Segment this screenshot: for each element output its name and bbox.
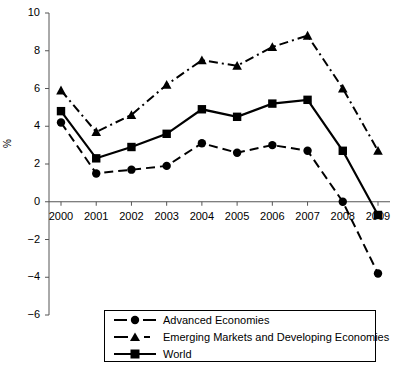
data-point-marker xyxy=(303,31,313,40)
data-point-marker xyxy=(339,147,347,155)
data-point-marker xyxy=(127,143,135,151)
legend-item-emerging-markets: Emerging Markets and Developing Economie… xyxy=(105,328,375,345)
data-point-marker xyxy=(233,148,241,156)
legend-label: World xyxy=(163,348,192,360)
legend-swatch-square-solid xyxy=(113,347,157,361)
data-point-marker xyxy=(374,269,382,277)
data-point-marker xyxy=(91,127,101,136)
line-chart: % 1086420−2−4−6 200020012002200320042005… xyxy=(0,0,407,368)
data-point-marker xyxy=(268,141,276,149)
series-line xyxy=(61,123,378,274)
data-point-marker xyxy=(268,99,276,107)
y-tick-label: 2 xyxy=(14,157,40,169)
series-line xyxy=(61,100,378,215)
chart-legend: Advanced Economies Emerging Markets and … xyxy=(104,310,376,362)
legend-label: Emerging Markets and Developing Economie… xyxy=(163,331,389,343)
data-point-marker xyxy=(198,105,206,113)
x-tick-label: 2006 xyxy=(255,210,289,222)
data-point-marker xyxy=(92,154,100,162)
data-point-marker xyxy=(57,118,65,126)
data-point-marker xyxy=(57,107,65,115)
legend-swatch-circle-dashed xyxy=(113,313,157,327)
legend-label: Advanced Economies xyxy=(163,314,269,326)
data-point-marker xyxy=(338,84,348,93)
data-point-marker xyxy=(92,169,100,177)
y-tick-label: −6 xyxy=(14,308,40,320)
data-point-marker xyxy=(127,165,135,173)
data-point-marker xyxy=(162,80,172,89)
data-point-marker xyxy=(162,130,170,138)
data-point-marker xyxy=(197,55,207,64)
y-tick-label: 4 xyxy=(14,119,40,131)
y-tick-label: 0 xyxy=(14,195,40,207)
data-point-marker xyxy=(56,86,66,95)
x-tick-label: 2007 xyxy=(291,210,325,222)
x-tick-label: 2009 xyxy=(361,210,395,222)
x-tick-label: 2003 xyxy=(150,210,184,222)
x-tick-label: 2005 xyxy=(220,210,254,222)
y-tick-label: 10 xyxy=(14,6,40,18)
legend-item-advanced-economies: Advanced Economies xyxy=(105,311,375,328)
data-point-marker xyxy=(162,162,170,170)
series-group xyxy=(56,31,383,278)
data-point-marker xyxy=(233,113,241,121)
data-point-marker xyxy=(303,96,311,104)
x-tick-label: 2008 xyxy=(326,210,360,222)
x-tick-label: 2000 xyxy=(44,210,78,222)
legend-item-world: World xyxy=(105,345,375,362)
y-tick-label: −2 xyxy=(14,233,40,245)
y-tick-label: 6 xyxy=(14,82,40,94)
y-axis-title: % xyxy=(2,139,13,148)
x-tick-label: 2002 xyxy=(114,210,148,222)
y-tick-label: 8 xyxy=(14,44,40,56)
x-tick-label: 2004 xyxy=(185,210,219,222)
x-tick-label: 2001 xyxy=(79,210,113,222)
data-point-marker xyxy=(198,139,206,147)
legend-swatch-triangle-dashdot xyxy=(113,330,157,344)
data-point-marker xyxy=(303,147,311,155)
axis-group xyxy=(45,13,390,315)
data-point-marker xyxy=(339,198,347,206)
data-point-marker xyxy=(373,146,383,155)
y-tick-label: −4 xyxy=(14,270,40,282)
